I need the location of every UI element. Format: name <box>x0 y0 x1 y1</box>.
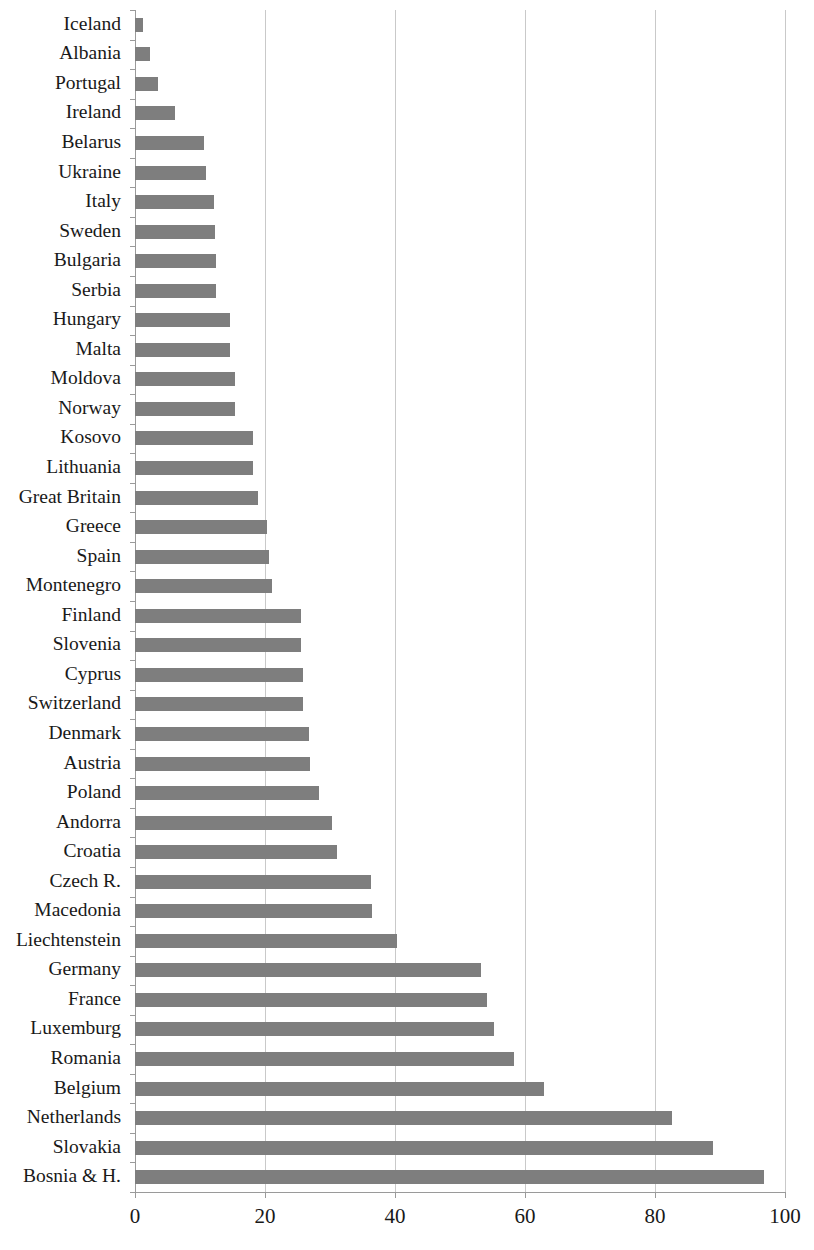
bar-slovenia <box>135 638 301 652</box>
y-axis-label-germany: Germany <box>48 959 121 979</box>
bar-ireland <box>135 106 175 120</box>
bar-row <box>135 10 785 40</box>
bar-row <box>135 335 785 365</box>
bar-iceland <box>135 18 143 32</box>
y-axis-label-belarus: Belarus <box>61 132 121 152</box>
bar-belarus <box>135 136 204 150</box>
bar-czech-r <box>135 875 371 889</box>
x-axis-label-20: 20 <box>255 1203 276 1229</box>
bar-row <box>135 837 785 867</box>
bar-row <box>135 483 785 513</box>
bar-row <box>135 276 785 306</box>
y-axis-category-labels: IcelandAlbaniaPortugalIrelandBelarusUkra… <box>0 10 128 1192</box>
bar-row <box>135 867 785 897</box>
x-axis-label-100: 100 <box>769 1203 801 1229</box>
bar-france <box>135 993 487 1007</box>
y-axis-label-albania: Albania <box>59 43 121 63</box>
bar-poland <box>135 786 319 800</box>
bar-norway <box>135 402 235 416</box>
y-axis-label-norway: Norway <box>58 398 121 418</box>
y-axis-label-netherlands: Netherlands <box>27 1107 121 1127</box>
bar-row <box>135 1103 785 1133</box>
bar-row <box>135 897 785 927</box>
bar-row <box>135 187 785 217</box>
y-axis-label-croatia: Croatia <box>64 841 121 861</box>
bar-row <box>135 631 785 661</box>
y-axis-label-serbia: Serbia <box>71 280 121 300</box>
y-axis-label-luxemburg: Luxemburg <box>30 1018 121 1038</box>
y-axis-label-spain: Spain <box>77 546 121 566</box>
y-axis-label-kosovo: Kosovo <box>60 427 121 447</box>
bar-row <box>135 512 785 542</box>
y-axis-label-cyprus: Cyprus <box>65 664 121 684</box>
bar-bulgaria <box>135 254 216 268</box>
bar-row <box>135 1015 785 1045</box>
bar-row <box>135 69 785 99</box>
bar-ukraine <box>135 166 206 180</box>
bar-row <box>135 99 785 129</box>
bar-row <box>135 453 785 483</box>
bar-row <box>135 128 785 158</box>
x-axis-label-60: 60 <box>515 1203 536 1229</box>
y-axis-label-malta: Malta <box>76 339 121 359</box>
y-axis-label-bosnia-h: Bosnia & H. <box>23 1166 121 1186</box>
y-axis-label-greece: Greece <box>66 516 121 536</box>
bar-row <box>135 660 785 690</box>
bar-switzerland <box>135 697 303 711</box>
y-axis-label-czech-r: Czech R. <box>50 871 121 891</box>
bar-row <box>135 571 785 601</box>
y-axis-label-lithuania: Lithuania <box>46 457 121 477</box>
y-axis-label-sweden: Sweden <box>59 221 121 241</box>
bar-row <box>135 926 785 956</box>
y-axis-label-austria: Austria <box>64 753 121 773</box>
bar-croatia <box>135 845 337 859</box>
bar-bosnia-h <box>135 1170 764 1184</box>
bar-liechtenstein <box>135 934 397 948</box>
y-axis-label-switzerland: Switzerland <box>28 693 121 713</box>
bar-hungary <box>135 313 230 327</box>
bar-malta <box>135 343 230 357</box>
y-axis-label-hungary: Hungary <box>53 309 121 329</box>
x-axis-label-80: 80 <box>645 1203 666 1229</box>
y-axis-label-slovakia: Slovakia <box>53 1137 121 1157</box>
y-axis-label-liechtenstein: Liechtenstein <box>16 930 121 950</box>
bar-montenegro <box>135 579 272 593</box>
bar-row <box>135 365 785 395</box>
y-axis-label-montenegro: Montenegro <box>26 575 121 595</box>
y-axis-label-denmark: Denmark <box>48 723 121 743</box>
bar-italy <box>135 195 214 209</box>
y-axis-label-france: France <box>68 989 121 1009</box>
x-tick-mark-100 <box>785 1192 786 1198</box>
bar-great-britain <box>135 491 258 505</box>
x-axis-label-40: 40 <box>385 1203 406 1229</box>
bar-netherlands <box>135 1111 672 1125</box>
bar-kosovo <box>135 431 253 445</box>
bar-serbia <box>135 284 216 298</box>
bar-greece <box>135 520 267 534</box>
x-tick-mark-40 <box>395 1192 396 1198</box>
bar-row <box>135 1162 785 1192</box>
y-axis-label-great-britain: Great Britain <box>19 487 121 507</box>
bar-row <box>135 542 785 572</box>
bar-row <box>135 690 785 720</box>
y-axis-label-belgium: Belgium <box>54 1078 121 1098</box>
x-tick-mark-60 <box>525 1192 526 1198</box>
bar-row <box>135 306 785 336</box>
bar-row <box>135 778 785 808</box>
bar-portugal <box>135 77 158 91</box>
bar-chart: IcelandAlbaniaPortugalIrelandBelarusUkra… <box>0 0 814 1250</box>
x-tick-mark-80 <box>655 1192 656 1198</box>
bar-sweden <box>135 225 215 239</box>
gridline-100 <box>785 10 786 1192</box>
bar-row <box>135 424 785 454</box>
bar-row <box>135 1044 785 1074</box>
y-axis-label-iceland: Iceland <box>64 14 121 34</box>
y-axis-label-portugal: Portugal <box>55 73 121 93</box>
bar-moldova <box>135 372 235 386</box>
y-axis-label-moldova: Moldova <box>51 368 121 388</box>
x-tick-mark-0 <box>135 1192 136 1198</box>
bar-row <box>135 394 785 424</box>
y-axis-label-macedonia: Macedonia <box>34 900 121 920</box>
y-axis-label-romania: Romania <box>51 1048 121 1068</box>
x-axis-tick-labels: 020406080100 <box>0 1203 814 1243</box>
